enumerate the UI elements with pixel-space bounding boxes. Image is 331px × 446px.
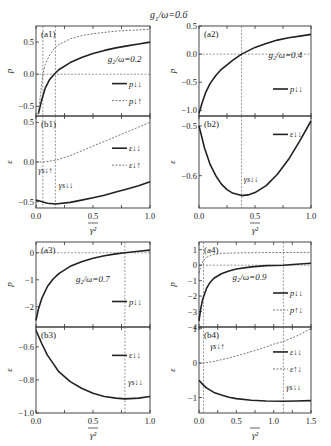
panel-label: (b2) <box>204 119 219 129</box>
gamma-critical-label: γs↓↓ <box>128 378 142 387</box>
legend-label: ε↓↓ <box>129 350 141 360</box>
panel-a3: −2−10p(a3)g₂/ω=0.7p↓↓ <box>4 242 150 327</box>
ytick-label: 0 <box>193 358 197 368</box>
series-line <box>36 250 150 320</box>
ytick-label: −0.8 <box>19 375 34 385</box>
panel-a4: −4−3−2−101p(a4)g₂/ω=0.9p↓↓p↑↓ <box>167 242 311 332</box>
coupling-annotation: g₂/ω=0.9 <box>233 272 267 282</box>
series-line <box>199 252 311 273</box>
series-line <box>36 182 150 204</box>
xtick-label: 1.0 <box>306 211 317 221</box>
panel-b1: −0.50.00.50.00.51.0γ²ε(b1)ε↓↓ε↓↑γs↓↑γs↓↓ <box>4 116 155 235</box>
legend-label: ε↑↓ <box>290 364 302 374</box>
legend-label: ε↓↓ <box>290 129 302 139</box>
ytick-label: −1 <box>25 275 34 285</box>
xtick-label: 0.0 <box>194 211 205 221</box>
x-axis-label: γ² <box>90 225 97 235</box>
legend-label: ε↓↓ <box>129 143 141 153</box>
ytick-label: −1 <box>188 276 197 286</box>
coupling-annotation: g₂/ω=0.4 <box>268 50 302 60</box>
gamma-critical-label: γs↓↑ <box>210 342 224 351</box>
y-axis-label: p <box>4 68 14 74</box>
y-axis-label: p <box>167 282 177 288</box>
xtick-label: 0.5 <box>231 416 242 426</box>
gamma-critical-label: γs↓↑ <box>38 166 52 175</box>
ytick-label: 0.0 <box>23 69 34 79</box>
xtick-label: 1.5 <box>306 416 317 426</box>
ytick-label: −2 <box>188 291 197 301</box>
legend-label: p↓↓ <box>289 84 303 94</box>
x-axis-label: γ² <box>90 430 97 440</box>
ytick-label: −0.6 <box>182 171 197 181</box>
ytick-label: −1.0 <box>182 105 197 115</box>
panel-b2: −0.6−0.50.00.51.0γ²ε(b2)ε↓↓γs↓↓ <box>167 116 316 235</box>
y-axis-label: ε <box>4 368 14 372</box>
x-axis-label: γ² <box>252 225 259 235</box>
gamma-critical-label: γs↓↓ <box>59 181 73 190</box>
xtick-label: 0.0 <box>31 416 42 426</box>
ytick-label: 0.5 <box>186 21 197 31</box>
ytick-label: 0.5 <box>23 117 34 127</box>
xtick-label: 1.0 <box>145 416 156 426</box>
xtick-label: 1.0 <box>145 211 156 221</box>
ytick-label: −3 <box>188 307 197 317</box>
xtick-label: 0.5 <box>88 416 99 426</box>
gamma-critical-label: γs↓↓ <box>286 383 300 392</box>
ytick-label: 1 <box>193 245 197 255</box>
y-axis-label: p <box>4 282 14 288</box>
panel-frame <box>199 26 311 116</box>
xtick-label: 0.0 <box>31 211 42 221</box>
x-axis-label: γ² <box>252 430 259 440</box>
legend-label: p↓↑ <box>128 96 142 106</box>
xtick-label: 0.5 <box>88 211 99 221</box>
panel-b4: −1010.00.51.01.5γ²ε(b4)ε↓↓ε↑↓γs↓↑γs↓↓ <box>167 324 316 440</box>
panel-label: (a3) <box>41 245 56 255</box>
legend-label: ε↓↑ <box>129 160 141 170</box>
y-axis-label: p <box>167 68 177 74</box>
ytick-label: −0.5 <box>19 101 34 111</box>
ytick-label: −0.5 <box>182 121 197 131</box>
series-line <box>199 34 311 113</box>
panel-label: (a4) <box>204 245 219 255</box>
panel-b3: −1.0−0.8−0.60.00.51.0γ²ε(b3)ε↓↓γs↓↓ <box>4 327 155 440</box>
legend-label: p↓↓ <box>289 288 303 298</box>
legend-label: p↑↓ <box>289 305 303 315</box>
coupling-annotation: g₂/ω=0.2 <box>108 54 142 64</box>
panel-a1: −0.50.00.5p(a1)g₂/ω=0.2p↓↓p↓↑ <box>4 26 150 116</box>
legend-label: p↓↓ <box>128 79 142 89</box>
ytick-label: 1 <box>193 324 197 334</box>
panel-label: (a2) <box>204 29 219 39</box>
ytick-label: −2 <box>25 302 34 312</box>
panel-label: (a1) <box>41 29 56 39</box>
series-line <box>36 330 150 399</box>
xtick-label: 0.0 <box>194 416 205 426</box>
ytick-label: −0.5 <box>19 197 34 207</box>
y-axis-label: ε <box>4 160 14 164</box>
panel-label: (b3) <box>41 330 56 340</box>
legend-label: ε↓↓ <box>290 347 302 357</box>
xtick-label: 0.5 <box>250 211 261 221</box>
panel-label: (b1) <box>41 119 56 129</box>
ytick-label: −1 <box>188 393 197 403</box>
xtick-label: 1.0 <box>268 416 279 426</box>
ytick-label: −0.5 <box>182 77 197 87</box>
ytick-label: 0 <box>30 248 34 258</box>
y-axis-label: ε <box>167 160 177 164</box>
ytick-label: −0.6 <box>19 342 34 352</box>
panel-a2: −1.0−0.50.00.5p(a2)g₂/ω=0.4p↓↓ <box>167 21 311 116</box>
panel-label: (b4) <box>204 330 219 340</box>
ytick-label: 0.0 <box>186 49 197 59</box>
ytick-label: 0.0 <box>23 157 34 167</box>
figure-canvas: −0.50.00.5p(a1)g₂/ω=0.2p↓↓p↓↑−0.50.00.50… <box>0 0 331 446</box>
legend-label: p↓↓ <box>128 297 142 307</box>
gamma-critical-label: γs↓↓ <box>244 175 258 184</box>
y-axis-label: ε <box>167 368 177 372</box>
ytick-label: 0.5 <box>23 37 34 47</box>
coupling-annotation: g₂/ω=0.7 <box>76 274 110 284</box>
ytick-label: 0 <box>193 260 197 270</box>
